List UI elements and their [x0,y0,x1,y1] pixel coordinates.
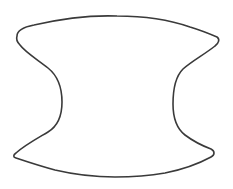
drawing-canvas: Hand-drawn outline of a symmetric concav… [0,0,233,189]
background [0,0,233,189]
spool-shape-outline [0,0,233,189]
